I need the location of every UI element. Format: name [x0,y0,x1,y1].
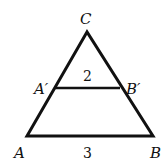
label-b: B [149,144,161,162]
label-a-prime: A′ [32,80,49,98]
label-b-prime: B′ [125,80,141,98]
length-ab: 3 [83,145,92,161]
label-a: A [12,144,25,162]
length-a-prime-b-prime: 2 [83,68,92,84]
label-c: C [80,10,92,28]
triangle-diagram: C A′ B′ A B 2 3 [0,0,167,163]
